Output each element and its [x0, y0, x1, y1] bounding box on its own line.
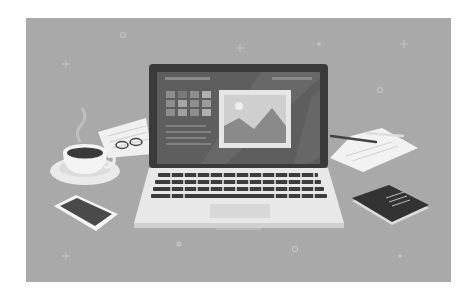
desk-illustration [26, 18, 451, 282]
smartphone [54, 195, 118, 231]
image-placeholder-icon [219, 90, 291, 148]
trackpad [210, 204, 270, 218]
illustration-background [26, 18, 451, 282]
spiral-notebook [352, 185, 429, 225]
laptop [134, 64, 344, 230]
